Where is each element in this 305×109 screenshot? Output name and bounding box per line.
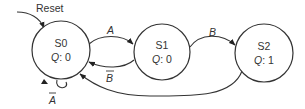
- state-circle: [235, 24, 293, 82]
- reset-label: Reset: [36, 2, 64, 14]
- output-val: 0: [65, 51, 71, 63]
- state-output: Q: 0: [51, 51, 71, 63]
- state-output: Q: 0: [152, 53, 172, 65]
- state-output: Q: 1: [254, 54, 274, 66]
- state-name: S1: [156, 39, 169, 51]
- edge-label-a-bar: A: [48, 94, 56, 106]
- output-val: 0: [166, 53, 172, 65]
- output-var: Q: [152, 53, 160, 65]
- state-circle: [32, 21, 90, 79]
- edge-label-b-bar: B: [106, 72, 113, 84]
- reset-arrow: [17, 12, 44, 28]
- edge-label-b: B: [209, 26, 216, 38]
- self-loop-line: [57, 80, 67, 88]
- transition-s1-s2: B: [190, 26, 235, 47]
- transition-s0-self: A: [41, 79, 67, 106]
- edge-a-arrow: [89, 37, 133, 45]
- transition-s1-s0: B: [89, 60, 134, 84]
- self-loop-arrowhead: [41, 79, 48, 84]
- transition-s0-s1: A: [89, 24, 133, 44]
- state-s2: S2 Q: 1: [235, 24, 293, 82]
- state-s1: S1 Q: 0: [134, 24, 190, 80]
- output-var: Q: [254, 54, 262, 66]
- output-var: Q: [51, 51, 59, 63]
- state-s0: S0 Q: 0: [32, 21, 90, 79]
- state-name: S0: [55, 37, 68, 49]
- state-diagram: Reset A B B A S0 Q: 0 S1 Q:: [0, 0, 305, 109]
- output-val: 1: [268, 54, 274, 66]
- edge-label-a: A: [106, 24, 114, 36]
- state-circle: [134, 24, 190, 80]
- state-name: S2: [258, 40, 271, 52]
- edge-bbar-arrow: [89, 60, 134, 67]
